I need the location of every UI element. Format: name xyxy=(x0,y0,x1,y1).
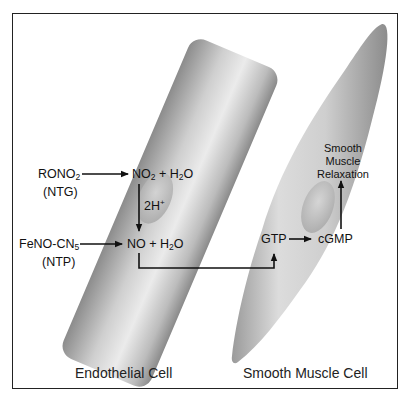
smooth-muscle-cell-caption: Smooth Muscle Cell xyxy=(243,365,368,381)
no2-h2o-label: NO2 + H2O xyxy=(132,168,193,182)
ntg-label: (NTG) xyxy=(43,186,78,199)
2h-plus-label: 2H+ xyxy=(144,199,165,213)
smooth-muscle-relaxation-label: Smooth Muscle Relaxation xyxy=(316,142,370,181)
relaxation-line-3: Relaxation xyxy=(316,168,370,181)
cgmp-label: cGMP xyxy=(318,233,353,246)
fenocn5-label: FeNO-CN5 xyxy=(19,238,79,252)
cell-illustration xyxy=(0,0,409,402)
gtp-label: GTP xyxy=(261,233,287,246)
relaxation-line-1: Smooth xyxy=(316,142,370,155)
relaxation-line-2: Muscle xyxy=(316,155,370,168)
rono2-label: RONO2 xyxy=(38,168,80,182)
endothelial-cell-caption: Endothelial Cell xyxy=(75,365,172,381)
ntp-label: (NTP) xyxy=(42,256,75,269)
no-h2o-label: NO + H2O xyxy=(127,238,184,252)
